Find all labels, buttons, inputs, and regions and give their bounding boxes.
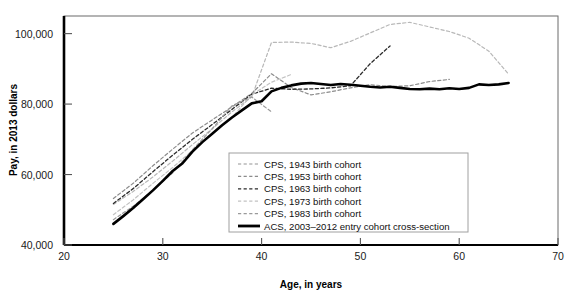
legend-label-3: CPS, 1973 birth cohort [264, 196, 361, 207]
y-tick-label: 40,000 [21, 239, 53, 251]
y-tick-label: 60,000 [21, 169, 53, 181]
x-tick-label: 50 [355, 250, 367, 262]
x-tick-label: 70 [552, 250, 564, 262]
chart-background [0, 0, 581, 298]
chart-legend: CPS, 1943 birth cohortCPS, 1953 birth co… [229, 153, 468, 232]
legend-label-1: CPS, 1953 birth cohort [264, 171, 361, 182]
y-tick-label: 80,000 [21, 98, 53, 110]
x-tick-label: 30 [157, 250, 169, 262]
line-chart: 203040506070 40,00060,00080,000100,000 A… [0, 0, 581, 298]
y-tick-label: 100,000 [15, 28, 53, 40]
legend-label-5: ACS, 2003–2012 entry cohort cross-sectio… [264, 221, 450, 232]
x-tick-label: 40 [256, 250, 268, 262]
legend-label-0: CPS, 1943 birth cohort [264, 159, 361, 170]
chart-figure: 203040506070 40,00060,00080,000100,000 A… [0, 0, 581, 298]
legend-label-2: CPS, 1963 birth cohort [264, 183, 361, 194]
legend-label-4: CPS, 1983 birth cohort [264, 208, 361, 219]
x-axis-title: Age, in years [280, 279, 343, 290]
y-axis-title: Pay, in 2013 dollars [8, 84, 19, 177]
x-tick-label: 60 [453, 250, 465, 262]
x-tick-label: 20 [58, 250, 70, 262]
